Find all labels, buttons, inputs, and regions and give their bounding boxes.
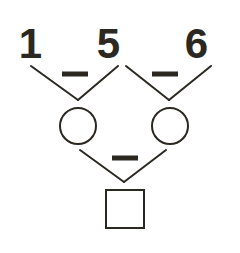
digit-1: 1 [19,20,42,67]
connector-right-v-right-arm [169,66,211,100]
connector-left-v-left-arm [31,66,78,100]
node-right-circle[interactable] [152,108,188,144]
digit-6: 6 [185,20,207,67]
node-result-square[interactable] [106,190,144,228]
minus-operator-right [152,72,178,77]
diagram-canvas: 1 5 6 [0,0,240,253]
node-left-circle[interactable] [60,108,96,144]
connector-bottom-v-right-arm [124,150,166,182]
connector-bottom-v-left-arm [80,150,124,182]
connector-right-v-left-arm [126,66,169,100]
minus-operator-left [62,72,88,77]
arithmetic-tree-diagram: 1 5 6 [0,0,240,253]
minus-operator-bottom [112,156,138,161]
digit-5: 5 [97,20,120,67]
connector-left-v-right-arm [78,66,118,100]
